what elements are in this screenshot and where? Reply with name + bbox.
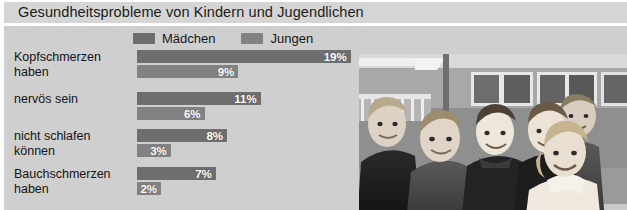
- group-label-line2: können: [14, 144, 132, 159]
- table-row: 11%: [137, 92, 261, 105]
- group-label-line2: haben: [14, 182, 132, 197]
- group-label-line1: Kopfschmerzen: [14, 50, 132, 65]
- table-row: 9%: [137, 65, 238, 78]
- group-bars: 11% 6%: [137, 92, 261, 122]
- bar-value-label: 11%: [234, 93, 260, 105]
- bar-value-label: 19%: [324, 51, 351, 63]
- group-label: Kopfschmerzen haben: [14, 50, 132, 79]
- chart-legend: Mädchen Jungen: [133, 30, 330, 46]
- table-row: 3%: [137, 144, 171, 157]
- bar-value-label: 3%: [150, 145, 171, 157]
- group-label-line1: nervös sein: [14, 92, 132, 107]
- group-label-line1: Bauchschmerzen: [14, 167, 132, 182]
- bar-value-label: 8%: [206, 130, 227, 142]
- group-bars: 19% 9%: [137, 50, 351, 80]
- bar-value-label: 9%: [218, 66, 239, 78]
- group-label: nervös sein: [14, 92, 132, 107]
- group-label: Bauchschmerzen haben: [14, 167, 132, 196]
- title-band: Gesundheitsprobleme von Kindern und Juge…: [4, 2, 627, 23]
- legend-item-maedchen: Mädchen: [133, 31, 215, 46]
- legend-swatch-maedchen-icon: [133, 33, 155, 44]
- group-of-children-photo: [359, 54, 627, 210]
- table-row: 7%: [137, 167, 216, 180]
- legend-item-jungen: Jungen: [241, 31, 313, 46]
- infographic-figure: Gesundheitsprobleme von Kindern und Juge…: [0, 0, 627, 210]
- bar-value-label: 2%: [140, 183, 161, 195]
- chart-panel: Mädchen Jungen Kopfschmerzen haben 19%: [4, 26, 627, 210]
- bar-value-label: 7%: [195, 168, 216, 180]
- table-row: 2%: [137, 182, 161, 195]
- group-label-line1: nicht schlafen: [14, 129, 132, 144]
- group-bars: 7% 2%: [137, 167, 216, 197]
- group-label-line2: haben: [14, 65, 132, 80]
- group-bars: 8% 3%: [137, 129, 227, 159]
- table-row: 8%: [137, 129, 227, 142]
- legend-swatch-jungen-icon: [241, 33, 263, 44]
- bar-chart: Kopfschmerzen haben 19% 9% nervös sein: [4, 50, 356, 210]
- page-title: Gesundheitsprobleme von Kindern und Juge…: [18, 4, 364, 20]
- group-label: nicht schlafen können: [14, 129, 132, 158]
- table-row: 6%: [137, 107, 205, 120]
- bar-value-label: 6%: [184, 108, 205, 120]
- legend-label-jungen: Jungen: [270, 31, 313, 46]
- photo-illustration: [359, 54, 627, 210]
- legend-label-maedchen: Mädchen: [162, 31, 215, 46]
- table-row: 19%: [137, 50, 351, 63]
